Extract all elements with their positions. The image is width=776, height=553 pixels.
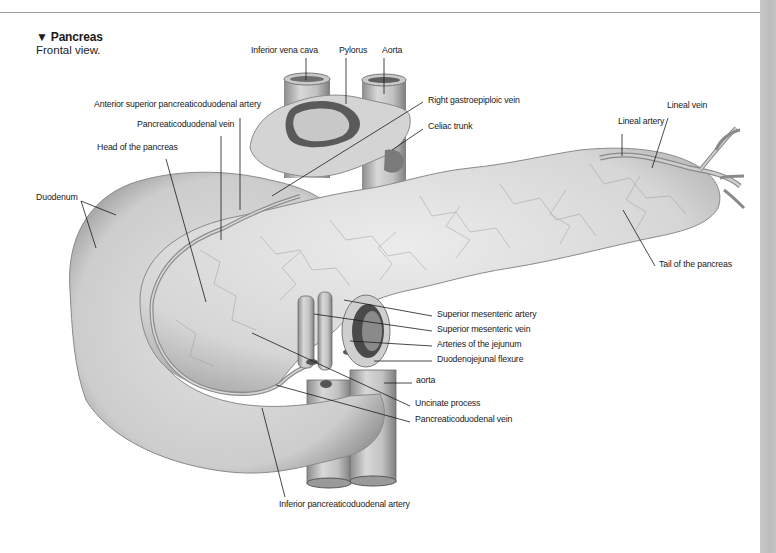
label-superior-mesenteric-artery: Superior mesenteric artery — [437, 308, 536, 319]
pylorus-stump — [250, 95, 410, 177]
label-uncinate-process: Uncinate process — [415, 397, 480, 408]
label-pylorus: Pylorus — [339, 44, 367, 55]
label-duodenum: Duodenum — [36, 191, 78, 202]
label-celiac-trunk: Celiac trunk — [428, 120, 472, 131]
label-lineal-artery: Lineal artery — [618, 115, 664, 126]
label-superior-mesenteric-vein: Superior mesenteric vein — [437, 323, 530, 334]
label-right-gastroepiploic-vein: Right gastroepiploic vein — [428, 94, 520, 105]
label-tail-of-the-pancreas: Tail of the pancreas — [659, 258, 732, 269]
label-duodenojejunal-flexure: Duodenojejunal flexure — [437, 353, 523, 364]
label-aorta-top: Aorta — [382, 44, 402, 55]
pancreas-illustration — [0, 0, 776, 553]
label-arteries-of-the-jejunum: Arteries of the jejunum — [437, 338, 521, 349]
label-anterior-superior-pancreaticoduodenal-artery: Anterior superior pancreaticoduodenal ar… — [94, 98, 261, 109]
label-aorta-bottom: aorta — [416, 374, 435, 385]
label-head-of-the-pancreas: Head of the pancreas — [97, 141, 178, 152]
duodenojejunal-flexure-shape — [342, 295, 390, 367]
label-inferior-pancreaticoduodenal-artery: Inferior pancreaticoduodenal artery — [279, 498, 410, 509]
label-lineal-vein: Lineal vein — [667, 99, 707, 110]
label-inferior-vena-cava: Inferior vena cava — [251, 44, 318, 55]
label-pancreaticoduodenal-vein-top: Pancreaticoduodenal vein — [137, 118, 234, 129]
label-pancreaticoduodenal-vein-bottom: Pancreaticoduodenal vein — [415, 413, 512, 424]
